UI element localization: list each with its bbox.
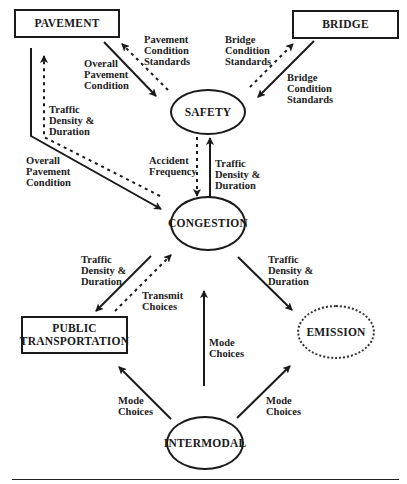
- label-congestion-to-safety: Traffic Density & Duration: [215, 158, 260, 191]
- label-safety-to-bridge: Bridge Condition Standards: [225, 34, 271, 67]
- label-congestion-to-pavement: Traffic Density & Duration: [49, 104, 94, 137]
- node-intermodal: INTERMODAL: [166, 416, 244, 470]
- label-transmit-choices: Transmit Choices: [142, 290, 183, 312]
- label-congestion-to-public-transportation: Traffic Density & Duration: [81, 254, 126, 287]
- label-accident-frequency: Accident Frequency: [149, 155, 197, 177]
- label-pavement-to-congestion: Overall Pavement Condition: [26, 155, 71, 188]
- label-bridge-to-safety: Bridge Condition Standards: [287, 72, 333, 105]
- node-congestion: CONGESTION: [170, 196, 246, 251]
- node-public-transportation: PUBLIC TRANSPORTATION: [21, 316, 128, 354]
- node-bridge: BRIDGE: [292, 10, 399, 39]
- node-pavement: PAVEMENT: [14, 9, 120, 38]
- label-mode-choices-right: Mode Choices: [266, 395, 301, 417]
- label-safety-to-pavement: Pavement Condition Standards: [144, 34, 190, 67]
- label-pavement-to-safety: Overall Pavement Condition: [84, 58, 129, 91]
- label-congestion-to-emission: Traffic Density & Duration: [268, 254, 313, 287]
- node-emission: EMISSION: [297, 305, 375, 359]
- node-safety: SAFETY: [170, 89, 246, 135]
- label-mode-choices-left: Mode Choices: [118, 395, 153, 417]
- label-mode-choices-center: Mode Choices: [209, 337, 244, 359]
- bottom-rule: [12, 479, 399, 480]
